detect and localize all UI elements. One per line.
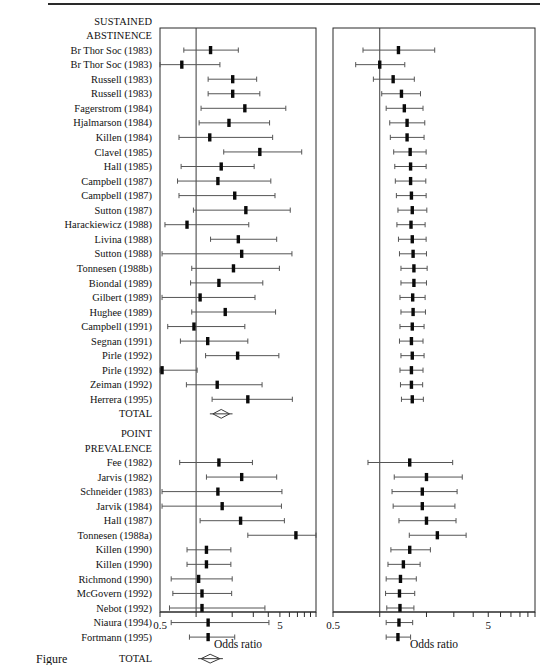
left-study-point-estimate (220, 162, 223, 170)
figure-caption: Figure (36, 652, 67, 665)
study-label: McGovern (1992) (77, 588, 152, 600)
right-cumulative-point-estimate (410, 381, 413, 389)
right-axis-title: Odds ratio (410, 638, 458, 650)
left-study-point-estimate (217, 279, 220, 287)
study-label: Killen (1984) (96, 132, 152, 144)
left-study-point-estimate (206, 337, 209, 345)
left-study-point-estimate (231, 90, 234, 98)
right-cumulative-point-estimate (405, 119, 408, 127)
right-cumulative-point-estimate (396, 633, 399, 641)
right-cumulative-point-estimate (398, 589, 401, 597)
right-cumulative-point-estimate (411, 235, 414, 243)
study-label: Hughee (1989) (89, 307, 152, 319)
study-label: Nebot (1992) (96, 603, 152, 615)
total-label: TOTAL (119, 653, 152, 664)
study-label: Tonnesen (1988a) (77, 530, 152, 542)
right-cumulative-point-estimate (397, 46, 400, 54)
left-study-point-estimate (205, 546, 208, 554)
left-study-point-estimate (246, 395, 249, 403)
section-header: ABSTINENCE (86, 30, 152, 41)
study-label: Jarvis (1982) (97, 472, 152, 484)
left-study-point-estimate (197, 575, 200, 583)
right-cumulative-point-estimate (400, 90, 403, 98)
right-cumulative-point-estimate (410, 366, 413, 374)
left-study-point-estimate (240, 473, 243, 481)
left-study-point-estimate (224, 308, 227, 316)
right-cumulative-point-estimate (425, 473, 428, 481)
left-study-point-estimate (198, 293, 201, 301)
left-study-point-estimate (236, 352, 239, 360)
study-label: Br Thor Soc (1983) (71, 59, 152, 71)
study-label: Livina (1988) (95, 234, 152, 246)
study-label: Richmond (1990) (78, 574, 152, 586)
study-label: Hall (1987) (104, 515, 152, 527)
study-label: Jarvik (1984) (96, 501, 152, 513)
study-label: Sutton (1987) (95, 205, 152, 217)
left-study-point-estimate (233, 192, 236, 200)
right-cumulative-point-estimate (411, 206, 414, 214)
study-label: Niaura (1994) (93, 617, 152, 629)
section-header: SUSTAINED (94, 16, 152, 27)
left-study-point-estimate (237, 235, 240, 243)
study-label: Schneider (1983) (80, 486, 152, 498)
left-study-point-estimate (240, 250, 243, 258)
right-axis-tick-label: 5 (486, 619, 492, 631)
right-cumulative-point-estimate (410, 192, 413, 200)
left-study-point-estimate (227, 119, 230, 127)
total-label: TOTAL (119, 408, 152, 419)
right-cumulative-point-estimate (436, 531, 439, 539)
left-panel-frame (160, 28, 316, 612)
right-panel-frame (333, 28, 535, 612)
right-cumulative-point-estimate (411, 250, 414, 258)
left-axis-title: Odds ratio (214, 638, 262, 650)
left-study-point-estimate (200, 589, 203, 597)
study-label: Russell (1983) (91, 88, 152, 100)
left-study-point-estimate (243, 104, 246, 112)
section-header: POINT (121, 428, 153, 439)
right-cumulative-point-estimate (409, 177, 412, 185)
right-cumulative-point-estimate (411, 395, 414, 403)
study-label: Fee (1982) (107, 457, 152, 469)
left-study-point-estimate (244, 206, 247, 214)
right-cumulative-point-estimate (403, 104, 406, 112)
right-cumulative-point-estimate (402, 560, 405, 568)
right-cumulative-point-estimate (409, 221, 412, 229)
right-axis-tick-label: 0.5 (326, 619, 340, 631)
right-cumulative-point-estimate (391, 75, 394, 83)
study-label: Hall (1985) (104, 161, 152, 173)
study-label: Pirle (1992) (102, 365, 152, 377)
study-label: Fagerstrom (1984) (74, 103, 152, 115)
study-label: Segnan (1991) (91, 336, 152, 348)
right-cumulative-point-estimate (425, 517, 428, 525)
study-label: Sutton (1988) (95, 248, 152, 260)
study-label: Clavel (1985) (95, 147, 152, 159)
left-study-point-estimate (206, 618, 209, 626)
right-cumulative-point-estimate (411, 308, 414, 316)
study-label: Tonnesen (1988b) (77, 263, 152, 275)
left-study-point-estimate (206, 633, 209, 641)
right-cumulative-point-estimate (378, 61, 381, 69)
left-study-point-estimate (208, 133, 211, 141)
left-study-point-estimate (209, 46, 212, 54)
study-label: Herrera (1995) (90, 394, 152, 406)
study-label: Campbell (1987) (81, 190, 152, 202)
right-cumulative-point-estimate (410, 337, 413, 345)
left-study-point-estimate (231, 75, 234, 83)
study-label: Br Thor Soc (1983) (71, 45, 152, 57)
left-study-point-estimate (239, 517, 242, 525)
right-cumulative-point-estimate (408, 546, 411, 554)
left-study-point-estimate (185, 221, 188, 229)
right-cumulative-point-estimate (408, 458, 411, 466)
right-cumulative-point-estimate (405, 133, 408, 141)
study-label: Fortmann (1995) (81, 632, 152, 644)
forest-plot-figure: SUSTAINEDABSTINENCEBr Thor Soc (1983)Br … (0, 0, 546, 665)
left-study-point-estimate (192, 322, 195, 330)
study-label: Harackiewicz (1988) (65, 219, 152, 231)
left-axis-tick-label: 0.5 (153, 619, 167, 631)
study-label: Zeiman (1992) (90, 379, 152, 391)
left-study-point-estimate (258, 148, 261, 156)
left-study-point-estimate (216, 488, 219, 496)
study-label: Killen (1990) (96, 544, 152, 556)
left-study-point-estimate (232, 264, 235, 272)
study-label: Campbell (1991) (81, 321, 152, 333)
